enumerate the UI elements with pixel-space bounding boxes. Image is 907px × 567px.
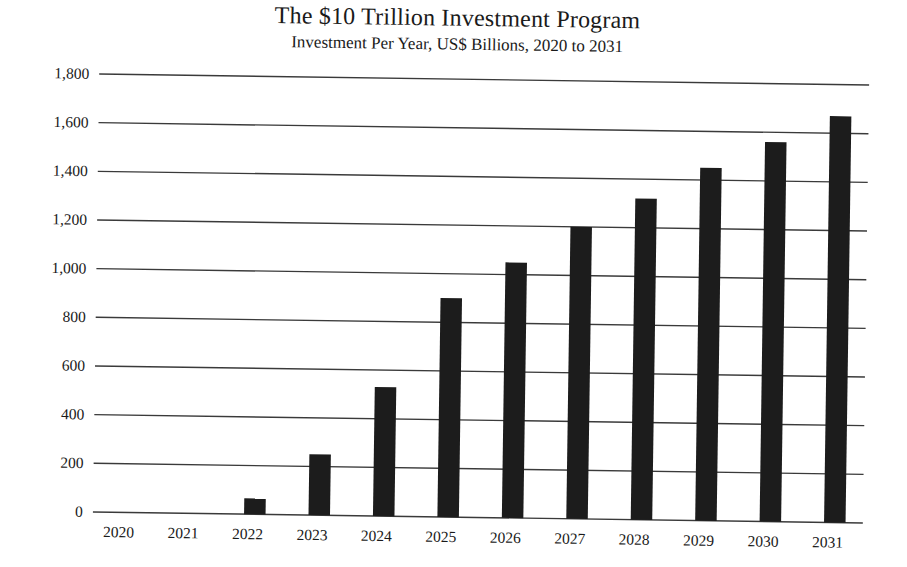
gridline-1200 [97, 220, 867, 231]
y-tick-label: 1,200 [52, 210, 87, 228]
bar-2022 [244, 498, 266, 514]
x-tick-label: 2020 [103, 523, 134, 540]
x-tick-label: 2025 [425, 528, 456, 545]
chart: The $10 Trillion Investment Program Inve… [0, 0, 907, 567]
x-tick-label: 2023 [296, 526, 327, 543]
x-tick-label: 2027 [554, 530, 585, 547]
bar-2026 [502, 262, 527, 518]
gridline-1000 [96, 269, 866, 280]
gridline-800 [96, 317, 866, 328]
y-tick-label: 600 [62, 357, 86, 374]
x-axis-labels: 2020202120222023202420252026202720282029… [103, 523, 843, 551]
y-tick-label: 1,000 [51, 259, 86, 277]
x-tick-label: 2030 [747, 532, 778, 549]
x-tick-label: 2028 [619, 530, 650, 547]
y-tick-label: 1,800 [54, 64, 89, 82]
x-tick-label: 2029 [683, 531, 714, 548]
y-tick-label: 1,600 [54, 113, 89, 131]
bar-2027 [566, 227, 592, 519]
gridline-600 [95, 366, 865, 377]
y-tick-label: 800 [62, 308, 86, 325]
bars [244, 108, 851, 523]
x-tick-label: 2024 [361, 527, 392, 544]
y-axis-labels: 02004006008001,0001,2001,4001,6001,800 [48, 64, 90, 519]
x-tick-label: 2031 [812, 533, 843, 550]
gridline-1400 [98, 171, 868, 182]
y-tick-label: 1,400 [53, 162, 88, 180]
y-tick-label: 0 [75, 503, 83, 520]
gridline-200 [94, 463, 864, 474]
y-tick-label: 400 [61, 405, 85, 422]
bar-2025 [437, 298, 462, 517]
gridlines [93, 74, 869, 523]
y-tick-label: 200 [60, 454, 84, 471]
gridline-400 [94, 415, 864, 426]
gridline-1600 [98, 123, 868, 134]
bar-2031 [824, 116, 851, 523]
bar-2030 [760, 142, 787, 522]
x-tick-label: 2026 [490, 529, 521, 546]
bar-2028 [631, 198, 657, 519]
bar-2024 [373, 387, 396, 516]
gridline-0 [93, 512, 863, 523]
bar-2029 [695, 168, 722, 521]
x-tick-label: 2021 [167, 524, 198, 541]
bar-2023 [309, 454, 331, 515]
x-tick-label: 2022 [232, 525, 263, 542]
gridline-1800 [99, 74, 869, 85]
bar-chart-plot: 02004006008001,0001,2001,4001,6001,800 2… [0, 0, 907, 567]
